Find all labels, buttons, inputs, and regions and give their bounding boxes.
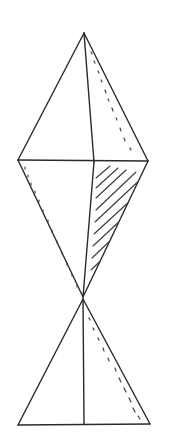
bottom-center-line (83, 299, 84, 424)
kite-horizontal-edge (18, 160, 148, 161)
sketch-canvas (0, 0, 170, 448)
dotted-shading-bottom-right (89, 318, 140, 419)
kite-right-upper-edge (84, 33, 148, 161)
kite-left-lower-edge (18, 160, 83, 297)
dotted-shading-top-right (91, 52, 131, 150)
bottom-triangle (18, 299, 150, 425)
bottom-right-edge (83, 299, 150, 424)
geometric-sketch (0, 0, 170, 448)
kite-left-upper-edge (18, 33, 84, 160)
upper-kite (18, 33, 148, 297)
kite-inner-upper-line (84, 33, 94, 162)
bottom-left-edge (18, 299, 83, 425)
